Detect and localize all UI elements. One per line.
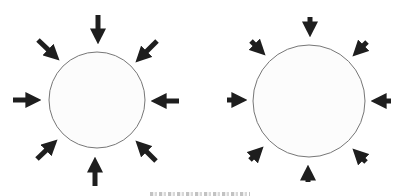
- arrow-up-left-icon: [357, 153, 366, 162]
- arrow-up-right-icon: [37, 144, 53, 159]
- compression-diagram: [0, 0, 400, 196]
- left-circle: [49, 52, 145, 148]
- arrow-down-right-icon: [38, 40, 55, 56]
- right-panel: [227, 17, 391, 182]
- right-circle: [253, 45, 365, 157]
- arrow-down-left-icon: [140, 41, 157, 58]
- figure-caption-clipped: [150, 192, 250, 196]
- arrow-up-right-icon: [250, 151, 259, 160]
- arrow-down-right-icon: [251, 41, 261, 51]
- left-panel: [13, 15, 179, 186]
- arrow-up-left-icon: [140, 145, 156, 161]
- arrow-down-left-icon: [357, 42, 367, 52]
